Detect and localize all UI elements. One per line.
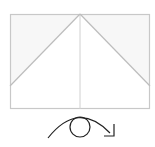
paper-sheet: [10, 14, 150, 109]
turn-over-icon: [48, 117, 114, 138]
folding-diagram: [0, 0, 155, 147]
